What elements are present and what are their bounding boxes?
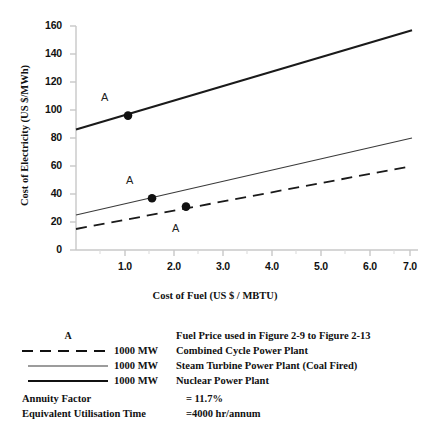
legend-key-marker-letter: A [22,328,114,343]
y-tick-label-60: 60 [28,159,62,171]
y-tick-label-0: 0 [28,243,62,255]
note-value-annuity-factor: = 11.7% [186,393,223,404]
assumptions-notes: Annuity Factor = 11.7% Equivalent Utilis… [22,391,422,421]
y-tick-label-140: 140 [28,47,62,59]
y-tick-label-100: 100 [28,103,62,115]
x-tick-label-3: 3.0 [206,260,240,272]
data-point-steam-turbine-a [148,194,157,203]
legend-key-dashed-line [22,343,114,358]
thick-solid-line-icon [22,373,114,388]
note-label-annuity-factor: Annuity Factor [22,393,186,404]
data-point-combined-cycle-a [182,202,191,211]
y-axis-ticks [70,26,76,250]
annotation-a-nuclear: A [101,91,108,103]
y-tick-label-120: 120 [28,75,62,87]
figure-cost-of-electricity-vs-fuel: 160 140 120 100 80 60 40 20 0 1.0 2.0 3.… [0,0,430,432]
legend-row-combined-cycle: 1000 MW Combined Cycle Power Plant [22,343,422,358]
y-tick-label-80: 80 [28,131,62,143]
x-tick-label-5: 5.0 [304,260,338,272]
legend-row-steam-turbine: 1000 MW Steam Turbine Power Plant (Coal … [22,358,422,373]
x-tick-label-4: 4.0 [255,260,289,272]
thin-solid-line-icon [22,358,114,373]
legend-row-nuclear: 1000 MW Nuclear Power Plant [22,373,422,388]
note-value-utilisation-time: =4000 hr/annum [186,408,261,419]
legend-row-fuel-price: A Fuel Price used in Figure 2-9 to Figur… [22,328,422,343]
note-label-utilisation-time: Equivalent Utilisation Time [22,408,186,419]
x-tick-label-6: 6.0 [353,260,387,272]
y-axis-title: Cost of Electricity (US $/MWh) [19,26,30,246]
x-tick-label-1: 1.0 [108,260,142,272]
x-axis-title: Cost of Fuel (US $ / MBTU) [0,290,430,301]
annotation-a-steam-turbine: A [126,174,133,186]
legend-fuel-price-note: Fuel Price used in Figure 2-9 to Figure … [176,330,370,341]
legend-capacity-combined-cycle: 1000 MW [114,345,176,356]
legend-key-thin-solid-line [22,358,114,373]
legend-label-steam-turbine: Steam Turbine Power Plant (Coal Fired) [176,360,357,371]
y-tick-label-20: 20 [28,215,62,227]
legend-key-thick-solid-line [22,373,114,388]
legend-marker-letter: A [22,328,114,343]
y-tick-label-160: 160 [28,19,62,31]
legend-capacity-nuclear: 1000 MW [114,375,176,386]
x-axis-ticks [125,250,410,256]
annotation-a-combined-cycle: A [172,222,179,234]
plot-canvas [0,0,430,320]
note-row-annuity-factor: Annuity Factor = 11.7% [22,391,422,406]
legend-label-nuclear: Nuclear Power Plant [176,375,269,386]
plot-area: 160 140 120 100 80 60 40 20 0 1.0 2.0 3.… [0,0,430,320]
note-row-utilisation-time: Equivalent Utilisation Time =4000 hr/ann… [22,406,422,421]
x-tick-label-7: 7.0 [393,260,427,272]
legend-capacity-steam-turbine: 1000 MW [114,360,176,371]
dashed-line-icon [22,343,114,358]
x-tick-label-2: 2.0 [157,260,191,272]
legend-label-combined-cycle: Combined Cycle Power Plant [176,345,308,356]
y-tick-label-40: 40 [28,187,62,199]
legend: A Fuel Price used in Figure 2-9 to Figur… [22,328,422,388]
data-point-nuclear-a [124,111,133,120]
